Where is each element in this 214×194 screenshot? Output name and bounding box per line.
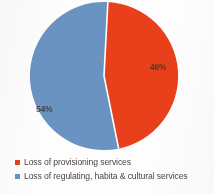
pie-plot-area: 46% 54% — [0, 0, 214, 152]
slice-value-label-red: 46% — [150, 62, 166, 72]
square-marker-blue-icon — [15, 174, 20, 179]
slice-value-label-blue: 54% — [36, 104, 52, 114]
legend-item-label: Loss of provisioning services — [24, 157, 131, 167]
pie-slice-loss-of-provisioning-services[interactable] — [104, 2, 178, 149]
square-marker-red-icon — [15, 160, 20, 165]
chart-legend: Loss of provisioning services Loss of re… — [0, 152, 214, 194]
pie-chart-figure: 46% 54% Loss of provisioning services Lo… — [0, 0, 214, 194]
legend-item-loss-of-provisioning-services[interactable]: Loss of provisioning services — [0, 155, 214, 169]
legend-item-loss-of-regulating-habita-cultural-services[interactable]: Loss of regulating, habita & cultural se… — [0, 169, 214, 183]
pie-svg — [0, 0, 214, 152]
legend-item-label: Loss of regulating, habita & cultural se… — [24, 171, 188, 181]
